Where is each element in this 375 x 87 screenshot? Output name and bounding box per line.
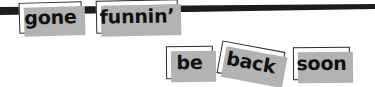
sign-scene: gone funnin’ be back soon <box>0 0 375 87</box>
word-card-gone[interactable]: gone <box>19 1 83 34</box>
word-card-label: be <box>176 53 202 72</box>
word-card-soon[interactable]: soon <box>293 47 350 80</box>
word-card-back[interactable]: back <box>217 40 286 84</box>
word-card-label: gone <box>24 7 77 27</box>
word-card-label: funnin’ <box>99 6 174 27</box>
word-card-funnin[interactable]: funnin’ <box>96 0 179 34</box>
word-card-label: soon <box>296 54 346 73</box>
word-card-be[interactable]: be <box>166 46 213 79</box>
